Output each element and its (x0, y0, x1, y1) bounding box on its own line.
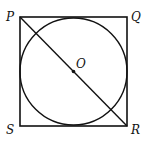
label-r: R (130, 123, 140, 137)
label-p: P (5, 10, 15, 24)
label-s: S (6, 123, 14, 137)
label-o: O (76, 57, 86, 71)
label-q: Q (131, 10, 141, 24)
center-point-o (72, 70, 76, 74)
geometry-diagram: P Q R S O (0, 0, 146, 144)
